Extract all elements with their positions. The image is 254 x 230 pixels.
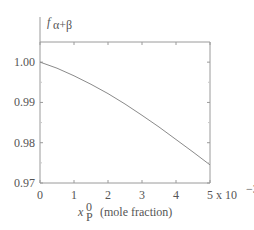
- x-multiplier: x 10: [216, 188, 237, 202]
- x-axis-label-sub: P: [86, 210, 93, 224]
- x-tick-label: 0: [37, 188, 43, 202]
- y-axis-label-sub: α+β: [53, 18, 72, 32]
- x-tick-label: 3: [139, 188, 145, 202]
- x-tick-label: 2: [105, 188, 111, 202]
- y-tick-label: 1.00: [14, 55, 35, 69]
- x-multiplier-exp: −3: [246, 182, 254, 196]
- line-chart: 012345x 10−31.000.990.980.97fα+βx0P(mole…: [0, 0, 254, 230]
- y-tick-label: 0.98: [14, 136, 35, 150]
- x-tick-label: 5: [207, 188, 213, 202]
- x-tick-label: 4: [173, 188, 179, 202]
- x-tick-label: 1: [71, 188, 77, 202]
- x-axis-label-var: x: [77, 205, 84, 219]
- x-axis-label-text: (mole fraction): [100, 205, 172, 219]
- y-axis-label-main: f: [47, 15, 52, 29]
- data-line: [40, 62, 210, 165]
- y-tick-label: 0.97: [14, 176, 35, 190]
- y-tick-label: 0.99: [14, 95, 35, 109]
